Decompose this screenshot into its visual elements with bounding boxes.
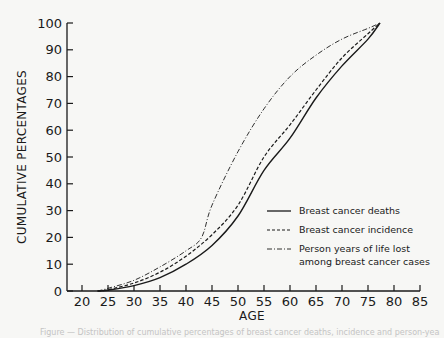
x-tick-label: 80	[386, 294, 403, 309]
y-tick-label: 30	[45, 203, 62, 218]
x-tick-label: 50	[230, 294, 247, 309]
x-tick-label: 45	[204, 294, 221, 309]
y-tick-label: 0	[54, 284, 62, 299]
y-tick-label: 70	[45, 96, 62, 111]
x-axis-title: AGE	[239, 309, 265, 323]
legend-label-pyll-line2: among breast cancer cases	[299, 256, 430, 267]
x-tick-label: 70	[334, 294, 351, 309]
y-tick-label: 80	[45, 69, 62, 84]
x-tick-label: 85	[412, 294, 429, 309]
y-tick-label: 10	[45, 257, 62, 272]
y-tick-label: 20	[45, 230, 62, 245]
x-tick-label: 30	[126, 294, 143, 309]
legend-label-incidence: Breast cancer incidence	[299, 224, 413, 235]
x-tick-label: 40	[178, 294, 195, 309]
y-tick-label: 60	[45, 123, 62, 138]
x-tick-label: 20	[74, 294, 91, 309]
y-tick-label: 40	[45, 176, 62, 191]
y-axis-title: CUMULATIVE PERCENTAGES	[15, 70, 29, 244]
x-tick-label: 75	[360, 294, 377, 309]
y-tick-label: 100	[37, 16, 62, 31]
figure-caption: Figure — Distribution of cumulative perc…	[40, 328, 440, 338]
chart: 0102030405060708090100 20253035404550556…	[0, 0, 444, 338]
x-tick-label: 25	[100, 294, 117, 309]
legend-label-deaths: Breast cancer deaths	[299, 205, 400, 216]
x-tick-label: 35	[152, 294, 169, 309]
legend-label-pyll-line1: Person years of life lost	[299, 243, 410, 254]
x-tick-label: 60	[282, 294, 299, 309]
y-tick-label: 90	[45, 42, 62, 57]
legend: Breast cancer deaths Breast cancer incid…	[267, 205, 430, 267]
x-tick-label: 55	[256, 294, 273, 309]
y-tick-label: 50	[45, 150, 62, 165]
y-axis: 0102030405060708090100	[37, 16, 73, 299]
x-tick-label: 65	[308, 294, 325, 309]
